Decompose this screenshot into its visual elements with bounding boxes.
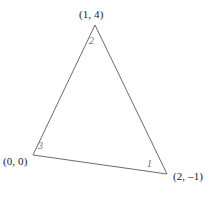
side-label-2: 2 <box>89 36 94 46</box>
vertex-label-top: (1, 4) <box>79 9 103 20</box>
triangle-shape <box>0 0 213 197</box>
triangle-figure: (1, 4) (0, 0) (2, –1) 2 3 1 <box>0 0 213 197</box>
vertex-label-bottom-left: (0, 0) <box>3 156 27 167</box>
side-label-3: 3 <box>38 141 43 151</box>
triangle-outline <box>33 25 167 174</box>
vertex-label-bottom-right: (2, –1) <box>173 171 203 182</box>
side-label-1: 1 <box>147 159 152 169</box>
